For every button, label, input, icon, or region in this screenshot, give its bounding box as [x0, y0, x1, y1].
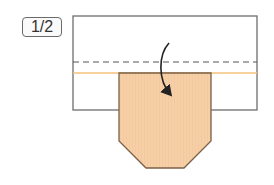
- origami-fold-diagram: [0, 0, 274, 185]
